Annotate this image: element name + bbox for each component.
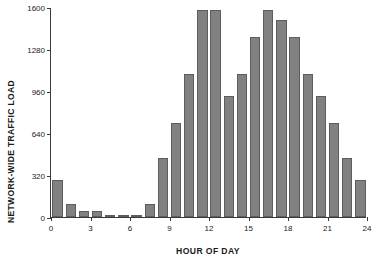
x-axis-title: HOUR OF DAY xyxy=(50,246,366,256)
x-axis-tick-label: 18 xyxy=(284,224,293,233)
bar xyxy=(342,158,352,217)
bar xyxy=(66,204,76,217)
x-axis-tick-label: 12 xyxy=(205,224,214,233)
bar xyxy=(303,74,313,217)
y-axis-tick-mark xyxy=(47,50,51,51)
x-axis-tick-mark xyxy=(91,217,92,221)
bar xyxy=(250,37,260,217)
x-axis-tick-label: 0 xyxy=(49,224,53,233)
x-axis-tick-label: 9 xyxy=(167,224,171,233)
bar xyxy=(355,180,365,217)
x-axis-tick-mark xyxy=(51,217,52,221)
bar xyxy=(79,211,89,217)
x-axis-tick-label: 3 xyxy=(88,224,92,233)
y-axis-tick-mark xyxy=(47,176,51,177)
bar xyxy=(171,123,181,217)
bar xyxy=(184,74,194,217)
bar xyxy=(329,123,339,217)
y-axis-title: NETWORK-WIDE TRAFFIC LOAD xyxy=(0,0,22,267)
x-axis-tick-mark xyxy=(170,217,171,221)
x-axis-tick-mark xyxy=(367,217,368,221)
bar-chart-figure: NETWORK-WIDE TRAFFIC LOAD 03206409601280… xyxy=(0,0,385,267)
x-axis-tick-label: 6 xyxy=(128,224,132,233)
bar xyxy=(158,158,168,217)
bar xyxy=(105,215,115,217)
y-axis-tick-mark xyxy=(47,134,51,135)
bar xyxy=(237,74,247,217)
bar xyxy=(92,211,102,217)
x-axis-tick-mark xyxy=(288,217,289,221)
y-axis-tick-label: 960 xyxy=(32,88,45,97)
y-axis-tick-label: 640 xyxy=(32,130,45,139)
x-axis-tick-mark xyxy=(130,217,131,221)
y-axis-tick-label: 0 xyxy=(41,214,45,223)
x-axis-tick-mark xyxy=(249,217,250,221)
bar xyxy=(197,10,207,217)
x-axis-tick-label: 15 xyxy=(244,224,253,233)
bar xyxy=(52,180,62,217)
bar xyxy=(263,10,273,217)
x-axis-tick-label: 24 xyxy=(363,224,372,233)
bar xyxy=(145,204,155,217)
bar xyxy=(131,215,141,217)
y-axis-tick-mark xyxy=(47,92,51,93)
bar xyxy=(210,10,220,217)
y-axis-tick-mark xyxy=(47,8,51,9)
bar xyxy=(316,96,326,217)
x-axis-tick-label: 21 xyxy=(323,224,332,233)
x-axis-tick-mark xyxy=(209,217,210,221)
y-axis-title-text: NETWORK-WIDE TRAFFIC LOAD xyxy=(6,80,16,223)
bar xyxy=(289,37,299,217)
y-axis-tick-label: 1280 xyxy=(27,46,45,55)
bar xyxy=(276,20,286,217)
y-axis-tick-label: 320 xyxy=(32,172,45,181)
x-axis-tick-mark xyxy=(328,217,329,221)
bar xyxy=(224,96,234,217)
plot-area: 032064096012801600 03691215182124 xyxy=(50,8,366,218)
y-axis-tick-label: 1600 xyxy=(27,4,45,13)
bar xyxy=(118,215,128,217)
